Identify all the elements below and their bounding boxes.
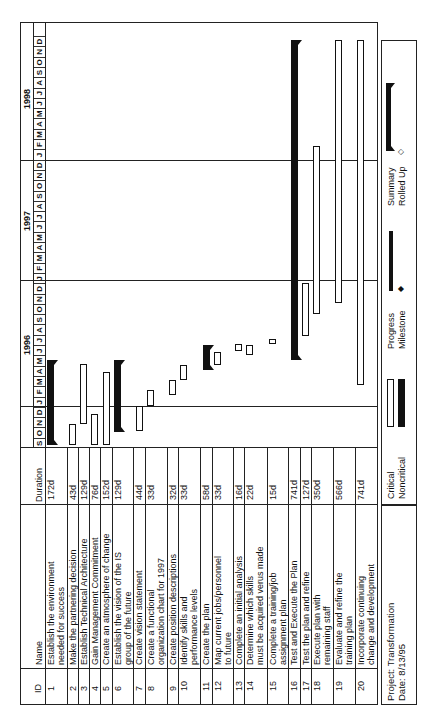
task-id: 12 <box>213 681 224 691</box>
year-label-1997: 1997 <box>22 211 33 231</box>
month-cell: S <box>34 67 45 77</box>
task-name: training plan <box>344 616 355 665</box>
month-cell: A <box>34 201 45 211</box>
task-name: assignment plan <box>278 599 289 665</box>
month-cell: S <box>34 191 45 201</box>
task-bar[interactable] <box>80 364 87 424</box>
month-cell: D <box>34 407 45 417</box>
legend-summary-label: Summary <box>386 167 397 206</box>
task-id: 1 <box>46 686 57 691</box>
month-cell: A <box>34 324 45 334</box>
legend-progress-label: Progress <box>386 313 397 349</box>
task-bar[interactable] <box>302 283 309 336</box>
task-bar[interactable] <box>103 372 110 445</box>
task-bar[interactable] <box>246 345 253 355</box>
duration-column-header: Duration <box>34 468 45 502</box>
month-cell: J <box>34 88 45 98</box>
task-name: Gain Management Commitment <box>90 537 101 665</box>
year-label-1996: 1996 <box>22 335 33 355</box>
task-bar[interactable] <box>136 406 143 431</box>
task-name: Establish the environment <box>46 561 57 665</box>
task-bar[interactable] <box>269 339 276 344</box>
task-name: group of the future <box>123 591 134 665</box>
task-bar[interactable] <box>180 365 187 380</box>
task-id: 7 <box>134 686 145 691</box>
id-column-header: ID <box>33 684 44 693</box>
project-label: Project: Transformation <box>386 603 397 701</box>
task-name: to future <box>223 632 234 665</box>
task-duration: 127d <box>301 480 312 500</box>
legend-critical-label: Critical <box>386 471 397 499</box>
month-cell: A <box>34 366 45 376</box>
task-id: 14 <box>245 681 256 691</box>
task-duration: 741d <box>289 480 300 500</box>
month-cell: M <box>34 252 45 262</box>
year-divider-1996 <box>20 406 378 407</box>
month-cell: F <box>34 386 45 396</box>
task-bar[interactable] <box>147 390 154 406</box>
month-cell: M <box>34 108 45 118</box>
task-duration: 58d <box>201 485 212 500</box>
task-name: Create a functional <box>146 589 157 665</box>
task-duration: 16d <box>234 485 245 500</box>
summary-bar[interactable] <box>47 360 54 445</box>
task-bar[interactable] <box>357 40 364 385</box>
month-cell: F <box>34 139 45 149</box>
task-id: 2 <box>68 686 79 691</box>
task-id: 13 <box>234 681 245 691</box>
rolled-up-diamond-icon: ◇ <box>396 149 407 155</box>
legend-rolled-up-label: Rolled Up <box>397 166 408 206</box>
task-id: 6 <box>113 686 124 691</box>
task-name: Incorporate continuing <box>356 576 367 665</box>
name-duration-divider <box>20 504 378 505</box>
task-id: 3 <box>79 686 90 691</box>
task-name: change and development <box>366 564 377 665</box>
task-bar[interactable] <box>69 424 76 445</box>
month-cell: J <box>34 149 45 159</box>
task-bar[interactable] <box>169 380 176 395</box>
task-name: remaining staff <box>322 606 333 665</box>
legend-progress-swatch <box>389 231 393 291</box>
task-name: Create an atmosphere of change <box>101 533 112 665</box>
task-name: must be acquired verus made <box>255 546 266 665</box>
year-divider-1998 <box>20 160 378 161</box>
month-cell: J <box>34 273 45 283</box>
month-cell: M <box>34 376 45 386</box>
month-cell: M <box>34 129 45 139</box>
summary-bar[interactable] <box>291 40 298 360</box>
task-id: 11 <box>201 682 212 691</box>
task-name: Complete a training/job <box>268 572 279 665</box>
task-bar[interactable] <box>313 146 320 314</box>
task-duration: 44d <box>134 485 145 500</box>
duration-timeline-divider <box>20 447 378 448</box>
task-id: 9 <box>168 686 179 691</box>
task-name: Create vision statement <box>134 570 145 665</box>
task-name: Test and Execute the Plan <box>289 560 300 665</box>
summary-bar[interactable] <box>114 360 121 432</box>
task-duration: 22d <box>245 485 256 500</box>
task-bar[interactable] <box>214 352 221 365</box>
month-cell: N <box>34 46 45 56</box>
task-id: 4 <box>90 686 101 691</box>
task-name: Identify skills and <box>179 596 190 665</box>
task-name: Complete an initial analysis <box>234 556 245 665</box>
task-duration: 350d <box>312 480 323 500</box>
task-duration: 33d <box>213 485 224 500</box>
legend-noncritical-label: Noncritical <box>397 457 408 499</box>
month-cell: D <box>34 160 45 170</box>
month-cell: J <box>34 221 45 231</box>
month-cell: M <box>34 232 45 242</box>
legend-critical-swatch <box>387 379 394 427</box>
task-bar[interactable] <box>91 414 98 445</box>
task-id: 8 <box>146 686 157 691</box>
month-cell: J <box>34 211 45 221</box>
summary-bar[interactable] <box>203 345 210 370</box>
task-name: organization chart for 1997 <box>156 558 167 665</box>
task-bar[interactable] <box>235 344 242 351</box>
month-cell: S <box>34 314 45 324</box>
task-bar[interactable] <box>335 40 342 303</box>
task-name: Create position descriptions <box>168 554 179 665</box>
legend-noncritical-swatch <box>398 379 405 427</box>
month-cell: D <box>34 283 45 293</box>
month-cell: J <box>34 345 45 355</box>
